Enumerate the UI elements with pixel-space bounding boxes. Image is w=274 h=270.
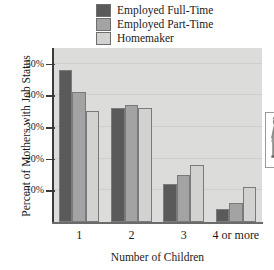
y-axis-line xyxy=(52,48,54,223)
chart-legend: Employed Full-Time Employed Part-Time Ho… xyxy=(96,3,256,45)
legend-item-part-time: Employed Part-Time xyxy=(96,17,256,31)
bar-1-3 xyxy=(86,111,100,222)
bar-3-2 xyxy=(177,175,191,222)
bar-2-2 xyxy=(125,105,139,222)
bar-3-3 xyxy=(190,165,204,222)
y-tick-label-40: 40% xyxy=(18,89,44,100)
legend-swatch-full-time xyxy=(96,4,111,17)
bar-1-2 xyxy=(72,92,86,222)
y-tick-label-30: 30% xyxy=(18,121,44,132)
y-tick-50 xyxy=(46,64,55,66)
legend-swatch-homemaker xyxy=(96,32,111,45)
gridline-50 xyxy=(53,63,262,64)
legend-item-homemaker: Homemaker xyxy=(96,31,256,45)
x-axis-line xyxy=(52,222,263,224)
y-tick-10 xyxy=(46,190,55,192)
bar-2-3 xyxy=(138,108,152,222)
bar-chart: Employed Full-Time Employed Part-Time Ho… xyxy=(0,0,274,270)
y-tick-40 xyxy=(46,95,55,97)
bar-1-1 xyxy=(59,70,73,222)
legend-item-full-time: Employed Full-Time xyxy=(96,3,256,17)
bar-4-3 xyxy=(243,187,257,222)
y-tick-20 xyxy=(46,159,55,161)
x-axis-title: Number of Children xyxy=(53,251,262,263)
bar-2-1 xyxy=(111,108,125,222)
y-tick-label-50: 50% xyxy=(18,58,44,69)
plot-area xyxy=(53,48,262,222)
y-axis-title: Percent of Mothers with Job Status xyxy=(20,46,32,226)
y-tick-label-10: 10% xyxy=(18,184,44,195)
legend-label-part-time: Employed Part-Time xyxy=(117,18,213,30)
y-tick-30 xyxy=(46,127,55,129)
mother-and-child-icon xyxy=(266,113,274,165)
y-tick-label-20: 20% xyxy=(18,153,44,164)
bar-4-2 xyxy=(229,203,243,222)
legend-label-full-time: Employed Full-Time xyxy=(117,4,213,16)
x-category-label-4: 4 or more xyxy=(201,228,271,243)
legend-swatch-part-time xyxy=(96,18,111,31)
legend-label-homemaker: Homemaker xyxy=(117,32,174,44)
bar-4-1 xyxy=(216,209,230,222)
bar-3-1 xyxy=(163,184,177,222)
mother-and-child-illustration xyxy=(265,112,274,168)
